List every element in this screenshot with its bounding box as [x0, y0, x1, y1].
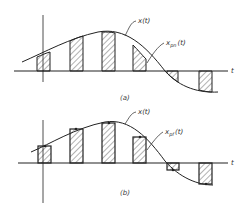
caption-a: (a) — [120, 94, 130, 102]
leader-line-x — [125, 112, 136, 124]
pulse — [199, 71, 212, 92]
pulse — [70, 36, 83, 71]
pulse — [199, 163, 212, 184]
natural-sample-pulses — [37, 32, 212, 92]
pulse — [70, 129, 83, 163]
sample-dot — [139, 136, 142, 139]
axis-label-t: t — [231, 159, 234, 167]
signal-curve-x — [31, 121, 213, 185]
label-x-of-t: x(t) — [137, 108, 151, 116]
label-xpn-of-t: xpn(t) — [165, 39, 186, 49]
pulse — [102, 123, 115, 163]
axis-label-t: t — [231, 67, 234, 75]
caption-b: (b) — [120, 189, 130, 197]
pulse — [102, 32, 115, 71]
sample-dot — [75, 128, 78, 131]
label-x-of-t: x(t) — [137, 17, 151, 25]
pulse — [167, 71, 178, 82]
sampling-diagram: x(t) xpn(t) t (a) x(t) — [0, 0, 250, 211]
leader-line-xpf — [147, 132, 163, 150]
pulse — [37, 52, 50, 71]
signal-curve-x — [22, 31, 218, 92]
pulse — [38, 146, 51, 163]
panel-a: x(t) xpn(t) t (a) — [14, 15, 234, 102]
flat-top-pulses — [38, 123, 212, 184]
leader-line-x — [125, 21, 136, 36]
label-xpf-of-t: xpf(t) — [164, 128, 184, 138]
panel-b: x(t) xpf(t) t (b) — [18, 108, 234, 203]
pulse — [133, 137, 146, 163]
pulse — [133, 45, 146, 71]
